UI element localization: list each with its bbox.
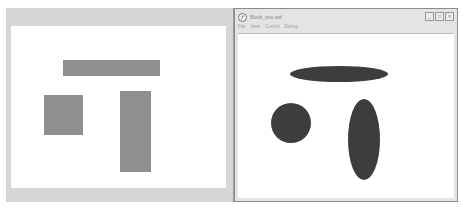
horizontal-bar-shape[interactable]: [63, 60, 160, 76]
editor-stage: [11, 26, 226, 188]
menu-debug[interactable]: Debug: [284, 24, 297, 31]
window-controls: _ □ ×: [425, 12, 454, 21]
flash-player-icon: ƒ: [238, 13, 247, 22]
circle-shape: [271, 103, 311, 143]
title-bar[interactable]: ƒ Block_test.swf _ □ ×: [236, 12, 456, 22]
menu-control[interactable]: Control: [265, 24, 280, 31]
menu-view[interactable]: View: [250, 24, 260, 31]
vertical-bar-shape[interactable]: [120, 91, 151, 172]
square-shape[interactable]: [44, 95, 83, 135]
horizontal-ellipse-shape: [290, 66, 388, 82]
minimize-button[interactable]: _: [425, 12, 434, 21]
editor-panel: [6, 8, 234, 202]
close-button[interactable]: ×: [445, 12, 454, 21]
menu-file[interactable]: File: [238, 24, 245, 31]
vertical-ellipse-shape: [348, 99, 380, 180]
flash-player-window: ƒ Block_test.swf _ □ × File View Control…: [234, 8, 458, 202]
maximize-button[interactable]: □: [435, 12, 444, 21]
menu-bar: File View Control Debug: [238, 24, 298, 31]
window-title: Block_test.swf: [250, 14, 282, 20]
player-stage: [238, 33, 454, 198]
